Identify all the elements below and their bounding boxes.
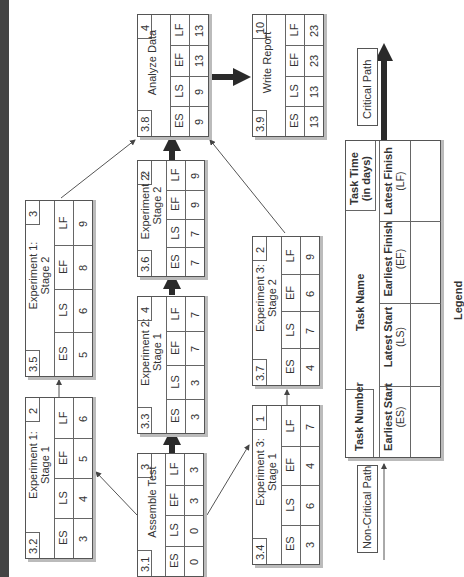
field-value-lf: 9 (77, 221, 89, 227)
task-number: 3.4 (254, 545, 266, 560)
field-label-es: ES (173, 114, 185, 128)
task-box-3.5: 3.53Experiment 1:Stage 2ES5LS6EF8LF9 (25, 200, 93, 377)
field-value-ls: 6 (77, 308, 89, 314)
field-label-ef: EF (57, 260, 69, 274)
legend-critical-path-label-box: Critical Path (357, 48, 378, 126)
field-label-ef: EF (57, 451, 69, 465)
legend-critical-path-label: Critical Path (361, 60, 373, 119)
task-box-3.6: 3.62Experiment 2:Stage 2ES7LS7EF9LF9 (137, 160, 205, 277)
field-label-ef: EF (284, 458, 296, 472)
field-label-ls: LS (57, 303, 69, 317)
task-box-3.2: 3.22Experiment 1:Stage 1ES3LS4EF5LF6 (25, 397, 93, 559)
legend-task-time: Task Time (in days) (348, 152, 372, 205)
field-value-es: 7 (189, 260, 201, 266)
field-label-lf: LF (169, 168, 181, 182)
field-value-ls: 9 (193, 89, 205, 95)
field-value-ef: 23 (308, 55, 320, 67)
legend-field-ef: Earliest Finish (EF) (382, 219, 406, 299)
field-value-lf: 6 (77, 416, 89, 422)
task-box-3.3: 3.34Experiment 2:Stage 1ES3LS3EF7LF7 (137, 296, 205, 434)
field-value-lf: 9 (304, 253, 316, 259)
task-number: 3.5 (27, 357, 39, 372)
task-box-3.7: 3.72Experiment 3:Stage 2ES4LS7EF6LF9 (252, 236, 320, 386)
arrow-3.5-to-3.8 (61, 140, 135, 198)
field-value-ef: 4 (304, 463, 316, 469)
field-label-es: ES (168, 554, 180, 568)
field-value-ls: 7 (304, 327, 316, 333)
field-label-ef: EF (284, 286, 296, 300)
legend-field-ls: Latest Start (LS) (382, 301, 406, 373)
task-name: Analyze Data (146, 17, 158, 108)
field-label-ls: LS (169, 375, 181, 389)
field-label-ls: LS (168, 523, 180, 537)
task-number: 3.6 (139, 257, 151, 272)
field-value-ls: 13 (308, 85, 320, 97)
field-label-es: ES (169, 409, 181, 423)
task-name: Experiment 2:Stage 1 (139, 299, 163, 405)
field-label-ls: LS (57, 491, 69, 505)
legend-task-name: Task Name (354, 274, 366, 331)
field-label-ef: EF (288, 53, 300, 67)
task-box-3.1: 3.13Assemble TestES0LS0EF3LF3 (137, 453, 204, 577)
field-value-ef: 5 (77, 456, 89, 462)
arrow-3.1-to-3.2 (96, 472, 137, 515)
legend-non-critical-path-label-box: Non-Critical Path (357, 465, 378, 553)
field-value-ls: 3 (189, 380, 201, 386)
field-value-es: 3 (189, 414, 201, 420)
legend-title: Legend (452, 281, 464, 320)
arrow-3.1-to-3.4 (207, 445, 249, 515)
field-label-lf: LF (284, 419, 296, 433)
field-value-lf: 7 (304, 424, 316, 430)
task-number: 3.8 (139, 117, 151, 132)
legend-task-number: Task Number (353, 382, 365, 451)
field-value-lf: 23 (308, 25, 320, 37)
field-label-lf: LF (57, 411, 69, 425)
field-label-es: ES (169, 255, 181, 269)
field-label-ls: LS (288, 84, 300, 98)
field-value-ls: 0 (188, 528, 200, 534)
field-label-lf: LF (57, 216, 69, 230)
legend-field-es: Earliest Start (ES) (382, 381, 406, 453)
field-label-ls: LS (169, 226, 181, 240)
field-label-ls: LS (284, 323, 296, 337)
field-value-ef: 13 (193, 55, 205, 67)
arrow-3.7-to-3.8 (210, 140, 285, 233)
field-label-lf: LF (173, 23, 185, 37)
field-value-es: 5 (77, 352, 89, 358)
field-label-lf: LF (169, 307, 181, 321)
field-value-ef: 6 (304, 290, 316, 296)
field-value-ls: 7 (189, 231, 201, 237)
field-value-ef: 9 (189, 202, 201, 208)
field-value-lf: 9 (189, 173, 201, 179)
field-label-es: ES (288, 114, 300, 128)
field-label-es: ES (284, 360, 296, 374)
field-label-lf: LF (284, 249, 296, 263)
field-label-ef: EF (173, 53, 185, 67)
field-value-es: 0 (188, 559, 200, 565)
task-name: Experiment 2:Stage 2 (139, 163, 163, 248)
task-number: 3.9 (254, 117, 266, 132)
task-number: 3.3 (139, 414, 151, 429)
task-name: Experiment 3:Stage 2 (254, 239, 278, 357)
legend-box: Task Number Task Name Task Time (in days… (345, 140, 441, 458)
task-number: 3.7 (254, 366, 266, 381)
field-value-ef: 7 (189, 346, 201, 352)
field-label-lf: LF (168, 462, 180, 476)
field-value-es: 13 (308, 116, 320, 128)
field-label-ls: LS (173, 84, 185, 98)
field-label-es: ES (284, 537, 296, 551)
legend-field-lf: Latest Finish (LF) (382, 143, 406, 219)
field-value-es: 3 (77, 536, 89, 542)
legend-non-critical-path-label: Non-Critical Path (361, 466, 373, 549)
task-name: Assemble Test (146, 456, 158, 548)
field-value-es: 3 (304, 542, 316, 548)
task-name: Experiment 1:Stage 1 (27, 400, 51, 530)
field-label-lf: LF (288, 23, 300, 37)
field-label-ef: EF (168, 493, 180, 507)
field-label-ls: LS (284, 498, 296, 512)
field-label-es: ES (57, 347, 69, 361)
field-value-lf: 3 (188, 467, 200, 473)
field-value-ls: 6 (304, 503, 316, 509)
task-box-3.4: 3.41Experiment 3:Stage 1ES3LS6EF4LF7 (252, 405, 320, 565)
field-label-es: ES (57, 531, 69, 545)
